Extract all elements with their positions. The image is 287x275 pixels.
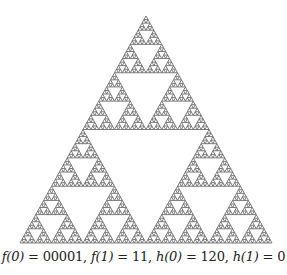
- f0-label: f(0): [2, 249, 24, 264]
- h1-value: 0: [277, 249, 285, 264]
- figure-caption: f(0) = 00001, f(1) = 11, h(0) = 120, h(1…: [0, 249, 287, 264]
- h0-value: 120: [201, 249, 225, 264]
- h1-label: h(1): [233, 249, 259, 264]
- fractal-path: [20, 16, 272, 243]
- sierpinski-triangle-figure: [0, 0, 287, 250]
- fractal-triangles: [20, 16, 272, 243]
- f0-value: 00001: [43, 249, 83, 264]
- h0-label: h(0): [156, 249, 182, 264]
- f1-value: 11: [132, 249, 148, 264]
- f1-label: f(1): [91, 249, 113, 264]
